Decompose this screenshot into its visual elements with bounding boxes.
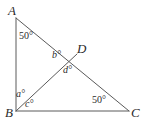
angle-label-c: c° — [25, 99, 33, 109]
vertex-label-d: D — [77, 42, 86, 55]
vertex-label-b: B — [5, 106, 13, 119]
geometry-canvas — [0, 0, 144, 124]
angle-label-b: b° — [52, 50, 61, 60]
angle-label-at-c: 50° — [92, 95, 106, 105]
angle-label-a: a° — [16, 89, 25, 99]
vertex-label-a: A — [8, 4, 16, 17]
angle-label-at-a: 50° — [19, 31, 33, 41]
angle-label-d: d° — [63, 65, 72, 75]
vertex-label-c: C — [131, 106, 140, 119]
geometry-figure: A B C D 50° b° d° a° c° 50° — [0, 0, 144, 124]
